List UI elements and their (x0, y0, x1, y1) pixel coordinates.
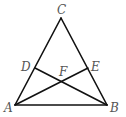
triangle-diagram: C D E F A B (0, 0, 126, 117)
segment-bc (61, 18, 107, 105)
label-f: F (58, 65, 68, 79)
label-e: E (90, 60, 100, 74)
label-d: D (20, 60, 31, 74)
label-b: B (109, 101, 119, 115)
label-a: A (3, 101, 13, 115)
label-c: C (57, 3, 66, 17)
